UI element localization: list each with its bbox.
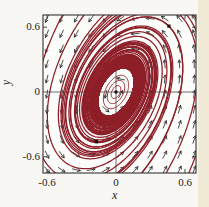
phase-portrait-figure: 0.6 0 -0.6 -0.6 0 0.6 x y	[0, 0, 209, 207]
x-tick-label-pos: 0.6	[168, 176, 202, 189]
y-tick-label-zero: 0	[12, 85, 40, 98]
y-axis-label: y	[0, 80, 13, 85]
x-axis-label: x	[112, 189, 117, 202]
x-tick-label-neg: -0.6	[30, 176, 64, 189]
y-tick-label-neg: -0.6	[12, 150, 40, 163]
page-edge-strip	[198, 0, 209, 207]
figure-page: 0.6 0 -0.6 -0.6 0 0.6 x y	[0, 0, 209, 207]
y-tick-label-pos: 0.6	[12, 20, 40, 33]
